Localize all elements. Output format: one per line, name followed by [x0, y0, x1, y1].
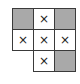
- cell-r2-c1-x-mark: ×: [33, 50, 55, 72]
- cell-r1-c1-x-mark: ×: [33, 29, 55, 51]
- cell-r2-c2-shaded: [54, 50, 76, 72]
- cell-r1-c0-x-mark: ×: [12, 29, 34, 51]
- grid-diagram: × × × × ×: [0, 0, 80, 84]
- cell-r0-c2-shaded: [54, 8, 76, 30]
- cell-r0-c0-shaded: [12, 8, 34, 30]
- cell-r1-c2-x-mark: ×: [54, 29, 76, 51]
- cell-r0-c1-x-mark: ×: [33, 8, 55, 30]
